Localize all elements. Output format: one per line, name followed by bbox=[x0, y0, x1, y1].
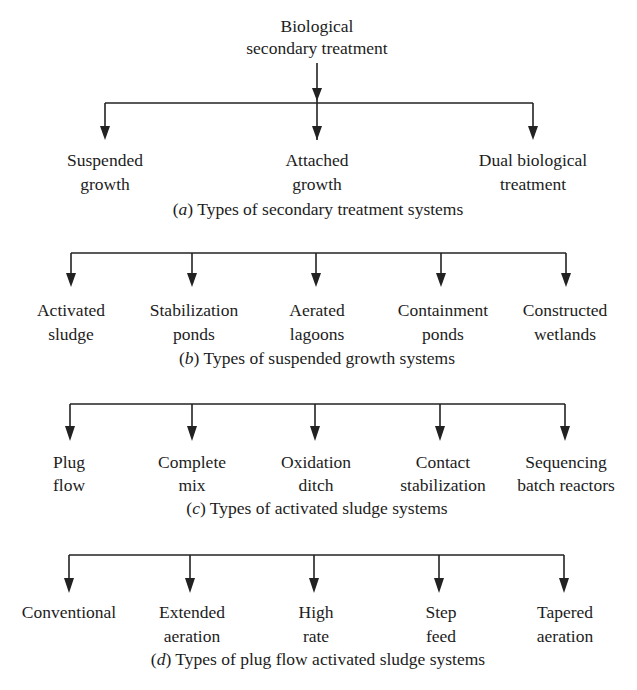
arrow-down-icon bbox=[528, 126, 538, 140]
svg-text:Oxidation: Oxidation bbox=[281, 452, 351, 472]
node-plug-flow: Plug flow bbox=[53, 452, 85, 495]
arrow-down-icon bbox=[559, 578, 569, 593]
svg-text:Dual biological: Dual biological bbox=[479, 150, 588, 170]
node-high-rate: High rate bbox=[299, 602, 334, 646]
svg-text:ditch: ditch bbox=[299, 475, 334, 495]
arrow-down-icon bbox=[312, 126, 322, 140]
arrow-down-icon bbox=[560, 426, 570, 441]
panel-a-nodes: Suspended growth Attached growth Dual bi… bbox=[67, 150, 587, 219]
svg-text:ponds: ponds bbox=[173, 324, 215, 344]
node-step-feed: Step feed bbox=[425, 602, 456, 646]
node-sequencing-batch-reactors: Sequencing batch reactors bbox=[517, 452, 615, 495]
arrow-down-icon bbox=[187, 273, 197, 287]
svg-text:Extended: Extended bbox=[159, 602, 225, 622]
panel-c-connectors bbox=[65, 404, 570, 441]
arrow-down-icon bbox=[434, 578, 444, 593]
svg-text:Attached: Attached bbox=[285, 150, 348, 170]
root-node: Biological secondary treatment bbox=[246, 16, 388, 58]
svg-text:Constructed: Constructed bbox=[523, 300, 608, 320]
node-aerated-lagoons: Aerated lagoons bbox=[289, 300, 345, 344]
arrow-down-icon bbox=[435, 426, 445, 441]
svg-text:Plug: Plug bbox=[53, 452, 85, 472]
panel-d-nodes: Conventional Extended aeration High rate… bbox=[22, 602, 594, 669]
node-stabilization-ponds: Stabilization ponds bbox=[150, 300, 239, 344]
arrow-down-icon bbox=[65, 426, 75, 441]
treatment-classification-diagram: Biological secondary treatment Suspended… bbox=[0, 0, 637, 690]
svg-text:Contact: Contact bbox=[416, 452, 471, 472]
arrow-down-icon bbox=[185, 578, 195, 593]
panel-b-nodes: Activated sludge Stabilization ponds Aer… bbox=[37, 300, 608, 368]
svg-text:aeration: aeration bbox=[164, 626, 221, 646]
svg-text:Containment: Containment bbox=[398, 300, 489, 320]
node-conventional: Conventional bbox=[22, 602, 116, 622]
svg-text:Tapered: Tapered bbox=[537, 602, 593, 622]
svg-text:rate: rate bbox=[303, 626, 329, 646]
node-constructed-wetlands: Constructed wetlands bbox=[523, 300, 608, 344]
arrow-down-icon bbox=[311, 273, 321, 287]
arrow-down-icon bbox=[100, 126, 110, 140]
node-extended-aeration: Extended aeration bbox=[159, 602, 225, 646]
arrow-down-icon bbox=[561, 273, 571, 287]
node-containment-ponds: Containment ponds bbox=[398, 300, 489, 344]
svg-text:wetlands: wetlands bbox=[534, 324, 596, 344]
svg-text:stabilization: stabilization bbox=[400, 475, 486, 495]
panel-d-caption: (d) Types of plug flow activated sludge … bbox=[151, 649, 485, 669]
panel-c-caption: (c) Types of activated sludge systems bbox=[186, 498, 448, 518]
panel-b-caption: (b) Types of suspended growth systems bbox=[179, 348, 455, 368]
svg-text:growth: growth bbox=[80, 174, 130, 194]
panel-c-nodes: Plug flow Complete mix Oxidation ditch C… bbox=[53, 452, 615, 518]
node-complete-mix: Complete mix bbox=[158, 452, 226, 495]
node-attached-growth: Attached growth bbox=[285, 150, 348, 194]
svg-text:treatment: treatment bbox=[500, 174, 566, 194]
panel-a-connectors bbox=[100, 63, 538, 140]
svg-text:batch reactors: batch reactors bbox=[517, 475, 615, 495]
svg-text:Conventional: Conventional bbox=[22, 602, 116, 622]
svg-text:growth: growth bbox=[292, 174, 342, 194]
svg-text:Sequencing: Sequencing bbox=[525, 452, 607, 472]
node-dual-biological-treatment: Dual biological treatment bbox=[479, 150, 588, 194]
arrow-down-icon bbox=[187, 426, 197, 441]
svg-text:Complete: Complete bbox=[158, 452, 226, 472]
svg-text:sludge: sludge bbox=[48, 324, 94, 344]
svg-text:Stabilization: Stabilization bbox=[150, 300, 239, 320]
panel-d-connectors bbox=[64, 555, 569, 593]
node-oxidation-ditch: Oxidation ditch bbox=[281, 452, 351, 495]
root-label-line1: Biological bbox=[281, 16, 354, 36]
node-suspended-growth: Suspended growth bbox=[67, 150, 143, 194]
node-activated-sludge: Activated sludge bbox=[37, 300, 105, 344]
svg-text:flow: flow bbox=[53, 475, 85, 495]
svg-text:aeration: aeration bbox=[537, 626, 594, 646]
arrow-down-icon bbox=[66, 273, 76, 287]
svg-text:Suspended: Suspended bbox=[67, 150, 143, 170]
panel-b-connectors bbox=[66, 253, 571, 287]
svg-text:lagoons: lagoons bbox=[290, 324, 345, 344]
svg-text:ponds: ponds bbox=[422, 324, 464, 344]
svg-text:Aerated: Aerated bbox=[289, 300, 345, 320]
node-contact-stabilization: Contact stabilization bbox=[400, 452, 486, 495]
arrow-down-icon bbox=[64, 578, 74, 593]
svg-text:High: High bbox=[299, 602, 334, 622]
root-label-line2: secondary treatment bbox=[246, 38, 388, 58]
arrow-down-icon bbox=[309, 578, 319, 593]
svg-text:Activated: Activated bbox=[37, 300, 105, 320]
arrow-down-icon bbox=[310, 426, 320, 441]
node-tapered-aeration: Tapered aeration bbox=[537, 602, 594, 646]
svg-text:feed: feed bbox=[426, 626, 456, 646]
arrow-down-icon bbox=[436, 273, 446, 287]
svg-text:Step: Step bbox=[425, 602, 456, 622]
panel-a-caption: (a) Types of secondary treatment systems bbox=[173, 199, 464, 219]
svg-text:mix: mix bbox=[178, 475, 205, 495]
root-arrow-icon bbox=[312, 88, 322, 101]
